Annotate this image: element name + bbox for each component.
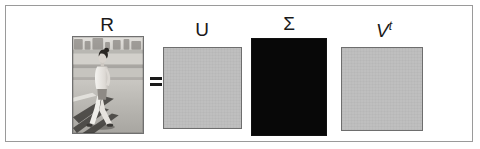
svd-figure: R [0, 0, 480, 149]
equals-bar-bottom [150, 83, 162, 86]
matrix-u-block [163, 47, 242, 129]
matrix-label-u: U [179, 20, 225, 39]
equals-bar-top [150, 77, 162, 80]
equals-sign [150, 77, 162, 88]
matrix-label-vt-base: V [376, 20, 389, 41]
matrix-label-vt: Vt [359, 20, 409, 40]
matrix-r-image [72, 36, 144, 134]
matrix-label-vt-superscript: t [389, 19, 392, 33]
matrix-label-sigma: Σ [266, 14, 312, 33]
matrix-sigma-block [251, 38, 327, 136]
matrix-vt-block [341, 47, 423, 131]
figure-frame: R [5, 5, 473, 142]
walking-woman-photograph [73, 37, 143, 133]
matrix-label-r: R [84, 15, 130, 34]
